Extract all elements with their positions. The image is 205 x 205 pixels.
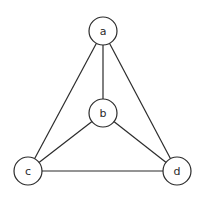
graph-svg: abcd [0,0,205,205]
node-a: a [89,17,117,45]
graph-diagram: abcd [0,0,205,205]
node-b: b [89,99,117,127]
node-label: a [100,25,107,38]
edge-a-d [103,31,177,171]
node-c: c [14,157,42,185]
edge-a-c [28,31,103,171]
node-d: d [163,157,191,185]
nodes-group: abcd [14,17,191,185]
node-label: d [174,165,181,178]
node-label: c [25,165,31,178]
node-label: b [100,107,107,120]
